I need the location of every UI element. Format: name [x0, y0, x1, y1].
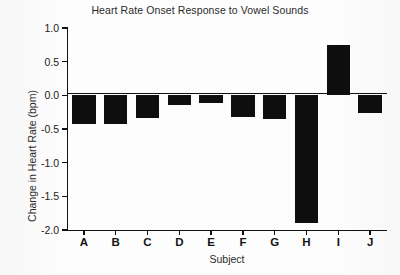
- x-axis-tick-label-e: E: [198, 236, 224, 248]
- bar-h[interactable]: [295, 95, 319, 223]
- plot-area: [68, 28, 386, 230]
- x-axis-tick: [179, 230, 180, 235]
- x-axis-tick-label-g: G: [262, 236, 288, 248]
- bar-j[interactable]: [358, 95, 382, 113]
- y-axis-tick-label: -0.5: [19, 123, 59, 135]
- x-axis-tick-label-j: J: [357, 236, 383, 248]
- x-axis-tick-label-h: H: [294, 236, 320, 248]
- bar-a[interactable]: [72, 95, 96, 123]
- x-axis-tick-label-c: C: [135, 236, 161, 248]
- y-axis-tick-label: 1.0: [19, 22, 59, 34]
- y-axis-tick-label: 0.5: [19, 56, 59, 68]
- x-axis-tick-label-a: A: [71, 236, 97, 248]
- bar-g[interactable]: [263, 95, 287, 119]
- x-axis-tick: [83, 230, 84, 235]
- y-axis-tick-label: -1.0: [19, 157, 59, 169]
- y-axis-tick-label: 0.0: [19, 89, 59, 101]
- chart-figure: Heart Rate Onset Response to Vowel Sound…: [0, 0, 400, 275]
- bar-e[interactable]: [199, 95, 223, 102]
- bar-d[interactable]: [168, 95, 192, 104]
- x-axis-tick-label-d: D: [166, 236, 192, 248]
- x-axis-tick: [210, 230, 211, 235]
- x-axis-tick: [115, 230, 116, 235]
- y-axis-tick-label: -1.5: [19, 190, 59, 202]
- x-axis-tick: [338, 230, 339, 235]
- x-axis-tick: [306, 230, 307, 235]
- x-axis-tick: [242, 230, 243, 235]
- x-axis-tick-label-b: B: [103, 236, 129, 248]
- bar-i[interactable]: [327, 45, 351, 96]
- bar-f[interactable]: [231, 95, 255, 117]
- bar-b[interactable]: [104, 95, 128, 123]
- x-axis-tick: [369, 230, 370, 235]
- x-axis-tick-label-f: F: [230, 236, 256, 248]
- chart-title: Heart Rate Onset Response to Vowel Sound…: [0, 4, 400, 16]
- x-axis-tick: [274, 230, 275, 235]
- y-axis-tick-label: -2.0: [19, 224, 59, 236]
- x-axis-title: Subject: [0, 253, 400, 265]
- x-axis-tick-label-i: I: [325, 236, 351, 248]
- bar-c[interactable]: [136, 95, 160, 117]
- x-axis-tick: [147, 230, 148, 235]
